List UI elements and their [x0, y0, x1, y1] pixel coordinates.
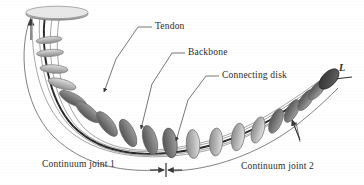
backbone-leader [141, 53, 185, 129]
connecting-disk [116, 117, 141, 150]
backbone-rod [44, 14, 331, 154]
base-disk [26, 6, 88, 20]
callout-label-tendon: Tendon [155, 21, 185, 31]
backbone-rod-highlight [44, 14, 331, 154]
joint-boundary-arrows [150, 163, 182, 177]
connecting-disk [229, 122, 246, 152]
callout-label-connecting-disk: Connecting disk [222, 70, 287, 80]
tendon-leader [104, 27, 152, 92]
connecting-disk [209, 128, 224, 157]
continuum-robot-figure: Tendon Backbone Connecting disk Continuu… [0, 0, 364, 185]
dimension-label-continuum-joint-1: Continuum joint 1 [42, 159, 115, 169]
tendon-line [32, 13, 330, 157]
tendon-group [32, 13, 333, 157]
callout-label-backbone: Backbone [188, 47, 228, 57]
dimension-label-continuum-joint-2: Continuum joint 2 [241, 161, 314, 171]
connecting-disk [47, 75, 78, 92]
backbone-group [44, 14, 331, 154]
connecting-disk [93, 108, 121, 139]
dimension-label-length: L [339, 62, 345, 73]
